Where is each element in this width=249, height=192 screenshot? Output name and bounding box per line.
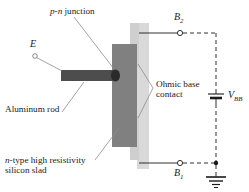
label-base1-subscript: 1	[180, 173, 183, 180]
label-silicon-line2: silicon slad	[5, 165, 47, 175]
b1-terminal-node[interactable]	[177, 160, 182, 165]
label-pn-junction-italic: p-n	[50, 6, 62, 16]
label-supply-voltage: VBB	[228, 89, 242, 103]
label-aluminum-rod: Aluminum rod	[5, 104, 59, 114]
emitter-terminal-node[interactable]	[33, 54, 38, 59]
emitter-lead-wire	[37, 58, 62, 71]
circuit-junction-dot	[214, 161, 218, 165]
label-ohmic-base-contact: Ohmic basecontact	[156, 79, 200, 100]
label-ohmic-base-line2: contact	[156, 89, 183, 99]
label-pn-junction: p-n junction	[50, 6, 95, 16]
label-emitter: E	[30, 38, 36, 49]
label-silicon-slab: n-type high resistivitysilicon slad	[5, 155, 86, 176]
label-pn-junction-rest: junction	[62, 6, 94, 16]
label-supply-subscript: BB	[234, 95, 242, 102]
figure-canvas: p-n junction E Aluminum rod Ohmic baseco…	[0, 0, 249, 192]
leader-line-aluminum-rod	[62, 82, 84, 112]
leader-line-pn-junction	[74, 17, 114, 69]
label-base2: B2	[174, 11, 184, 25]
label-base2-subscript: 2	[180, 17, 183, 24]
aluminum-rod-body	[61, 70, 116, 81]
b2-terminal-node[interactable]	[177, 30, 182, 35]
label-base1: B1	[174, 167, 184, 181]
label-ohmic-base-line1: Ohmic base	[156, 79, 200, 89]
pn-junction-cap	[111, 70, 120, 82]
silicon-slab-front-face	[112, 44, 137, 147]
label-silicon-line1-rest: -type high resistivity	[10, 155, 86, 165]
